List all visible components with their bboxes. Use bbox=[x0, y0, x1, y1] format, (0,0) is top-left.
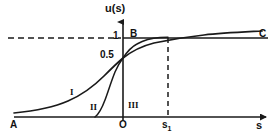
point-label-b: B bbox=[130, 29, 137, 39]
origin-label: O bbox=[119, 120, 127, 130]
sigmoid-function-figure: u(s) s 1 0.5 O s1 A B C I II III bbox=[0, 0, 278, 134]
region-label-ii: II bbox=[90, 103, 97, 112]
y-tick-label-one: 1 bbox=[113, 31, 119, 41]
x-axis-label: s bbox=[256, 120, 262, 131]
region-label-i: I bbox=[70, 88, 74, 97]
region-label-iii: III bbox=[128, 101, 139, 110]
point-label-a: A bbox=[10, 120, 17, 130]
y-tick-label-half: 0.5 bbox=[100, 50, 114, 60]
plot-canvas bbox=[0, 0, 278, 134]
x-tick-label-s1-subscript: 1 bbox=[168, 125, 172, 132]
y-axis-label: u(s) bbox=[105, 3, 125, 14]
x-tick-label-s1: s1 bbox=[162, 120, 171, 132]
point-label-c: C bbox=[259, 29, 266, 39]
